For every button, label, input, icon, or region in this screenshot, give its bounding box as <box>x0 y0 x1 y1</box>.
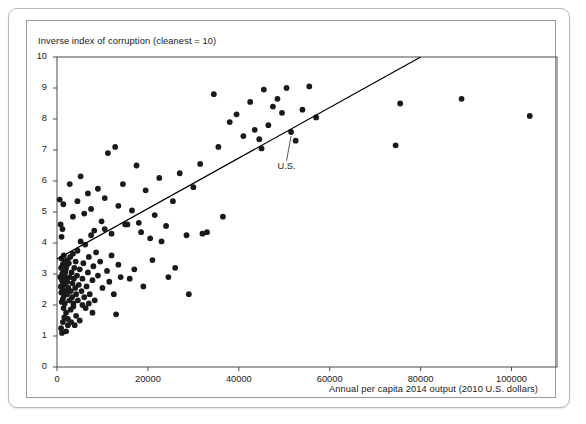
data-point <box>125 222 131 228</box>
data-point <box>150 257 156 263</box>
data-point <box>60 226 66 232</box>
annotation-label-us: U.S. <box>278 161 296 171</box>
data-point <box>200 231 206 237</box>
data-point <box>60 201 66 207</box>
data-point <box>147 235 153 241</box>
data-point <box>275 96 281 102</box>
data-point <box>120 181 126 187</box>
data-point <box>75 198 81 204</box>
data-point <box>65 322 71 328</box>
data-point <box>80 260 86 266</box>
data-point <box>85 191 91 197</box>
data-point <box>106 279 112 285</box>
data-point <box>81 294 87 300</box>
data-point <box>306 84 312 90</box>
x-axis-title: Annual per capita 2014 output (2010 U.S.… <box>329 384 538 394</box>
data-point <box>227 119 233 125</box>
data-point <box>131 266 137 272</box>
data-point <box>61 315 67 321</box>
data-point <box>92 297 98 303</box>
data-point <box>113 311 119 317</box>
data-point <box>136 220 142 226</box>
y-axis-tick-label: 10 <box>31 51 47 61</box>
data-point <box>88 206 94 212</box>
x-axis-tick-label: 100000 <box>482 374 542 384</box>
data-point <box>95 273 101 279</box>
data-point <box>186 291 192 297</box>
y-axis-tick-label: 4 <box>31 237 47 247</box>
data-point <box>76 282 82 288</box>
data-point <box>111 291 117 297</box>
data-point <box>67 181 73 187</box>
scatter-points-group <box>57 84 533 336</box>
y-axis-tick-label: 5 <box>31 206 47 216</box>
data-point <box>79 288 85 294</box>
data-point <box>75 297 81 303</box>
y-axis-tick-label: 6 <box>31 175 47 185</box>
data-point <box>97 259 103 265</box>
data-point <box>74 273 80 279</box>
data-point <box>240 133 246 139</box>
data-point <box>279 110 285 116</box>
data-point <box>129 208 135 214</box>
data-point <box>84 284 90 290</box>
scatter-plot <box>0 0 586 424</box>
data-point <box>134 163 140 169</box>
data-point <box>115 203 121 209</box>
data-point <box>118 274 124 280</box>
data-point <box>73 291 79 297</box>
data-point <box>184 232 190 238</box>
y-axis-tick-label: 3 <box>31 268 47 278</box>
data-point <box>109 231 115 237</box>
data-point <box>247 99 253 105</box>
data-point <box>77 266 83 272</box>
data-point <box>270 104 276 110</box>
data-point <box>397 101 403 107</box>
data-point <box>215 144 221 150</box>
data-point <box>156 175 162 181</box>
data-point <box>172 265 178 271</box>
data-point <box>197 161 203 167</box>
data-point <box>59 234 65 240</box>
data-point <box>138 229 144 235</box>
data-point <box>70 214 76 220</box>
data-point <box>140 284 146 290</box>
data-point <box>57 197 63 203</box>
data-point <box>73 259 79 265</box>
data-point <box>265 122 271 128</box>
y-axis-tick-label: 9 <box>31 82 47 92</box>
data-point <box>90 263 96 269</box>
x-axis-tick-label: 60000 <box>300 374 360 384</box>
data-point <box>165 274 171 280</box>
y-axis-tick-label: 2 <box>31 299 47 309</box>
data-point <box>81 211 87 217</box>
data-point <box>86 254 92 260</box>
data-point <box>459 96 465 102</box>
x-axis-tick-label: 40000 <box>209 374 269 384</box>
data-point <box>256 136 262 142</box>
y-axis-title: Inverse index of corruption (cleanest = … <box>38 36 216 46</box>
regression-line <box>57 57 421 259</box>
data-point <box>293 138 299 144</box>
data-point <box>127 276 133 282</box>
data-point <box>159 239 165 245</box>
data-point <box>99 218 105 224</box>
data-point <box>143 187 149 193</box>
data-point <box>72 322 78 328</box>
data-point <box>95 186 101 192</box>
data-point <box>112 144 118 150</box>
data-point <box>170 198 176 204</box>
data-point <box>152 212 158 218</box>
data-point <box>234 111 240 117</box>
data-point <box>102 195 108 201</box>
data-point <box>85 270 91 276</box>
data-point <box>100 285 106 291</box>
x-axis-tick-label: 0 <box>27 374 87 384</box>
data-point <box>163 223 169 229</box>
data-point <box>211 91 217 97</box>
data-point <box>91 228 97 234</box>
data-point <box>77 318 83 324</box>
data-point <box>261 87 267 93</box>
data-point <box>284 85 290 91</box>
data-point <box>90 277 96 283</box>
